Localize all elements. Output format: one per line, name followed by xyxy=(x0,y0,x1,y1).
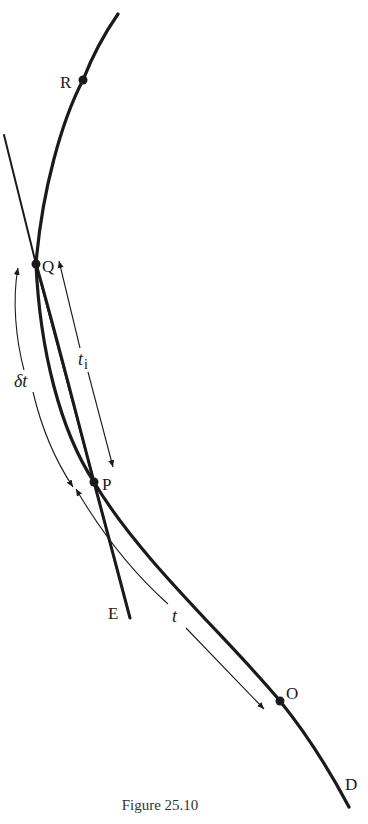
ti-arrow-up xyxy=(59,261,80,348)
point-r-dot xyxy=(79,76,88,85)
label-r: R xyxy=(60,73,72,92)
label-t-i: ti xyxy=(78,349,88,372)
main-trajectory-curve xyxy=(36,14,349,807)
label-e: E xyxy=(108,604,118,623)
diagram-figure: R Q P O D E t ti δt xyxy=(0,0,368,824)
delta-t-arrow-up xyxy=(15,268,24,370)
point-p-dot xyxy=(90,478,99,487)
label-delta-t: δt xyxy=(14,371,28,391)
label-d: D xyxy=(345,775,357,794)
label-t-i-sub: i xyxy=(84,357,88,372)
label-o: O xyxy=(286,684,298,703)
tangent-line-lower-segment xyxy=(94,482,130,618)
label-q: Q xyxy=(42,257,54,276)
label-p: P xyxy=(102,475,111,494)
ti-arrow-down xyxy=(88,372,113,467)
point-o-dot xyxy=(276,697,285,706)
delta-t-arrow-down xyxy=(33,392,73,487)
figure-caption: Figure 25.10 xyxy=(100,797,220,814)
label-t: t xyxy=(172,606,178,626)
point-q-dot xyxy=(32,260,41,269)
